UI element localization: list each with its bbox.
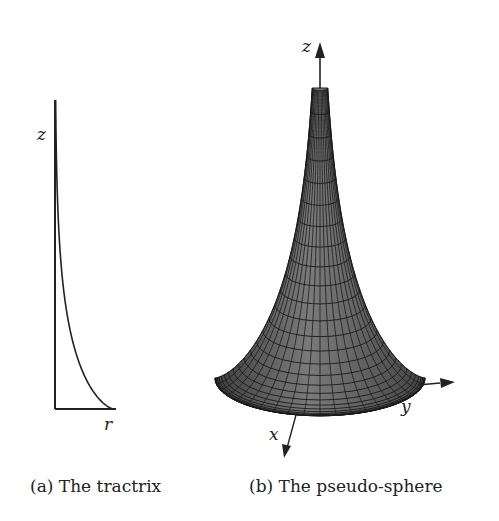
pseudosphere-plot: z y x	[215, 36, 455, 458]
tractrix-z-label: z	[36, 124, 47, 144]
y-axis-arrowhead-icon	[440, 378, 455, 388]
tractrix-r-label: r	[104, 414, 113, 434]
tractrix-plot: z r	[36, 100, 116, 434]
z-axis-arrowhead-icon	[315, 42, 325, 58]
x-axis-label: x	[269, 424, 279, 444]
z-axis-label: z	[301, 36, 312, 56]
x-axis-arrowhead-icon	[282, 444, 291, 458]
caption-a: (a) The tractrix	[30, 476, 161, 496]
pseudosphere-surface	[215, 88, 425, 416]
figure-canvas: z r z y x	[0, 0, 499, 521]
y-axis-label: y	[400, 396, 411, 416]
tractrix-curve	[56, 100, 114, 409]
caption-b: (b) The pseudo-sphere	[249, 476, 443, 496]
x-axis	[287, 415, 296, 448]
